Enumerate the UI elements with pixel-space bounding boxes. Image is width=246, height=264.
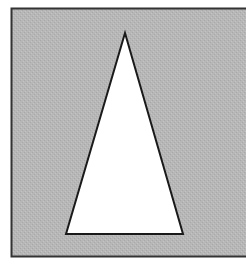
triangle-figure (0, 0, 246, 264)
diagram-canvas (0, 0, 246, 264)
